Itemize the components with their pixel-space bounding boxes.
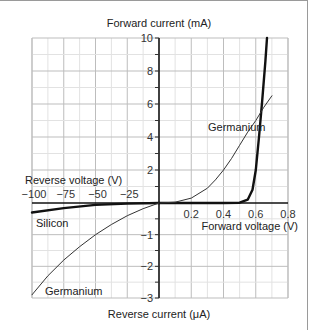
grid: [32, 38, 288, 298]
diode-iv-chart: 108642−1−2−3−100−75−50−250.20.40.60.8 Fo…: [0, 0, 312, 330]
x-tick-label: −75: [56, 188, 75, 200]
silicon-reverse-label: Silicon: [36, 217, 68, 229]
y-tick-label: 4: [147, 131, 153, 143]
x-tick-label: −50: [88, 188, 107, 200]
y-tick-label: −3: [140, 292, 153, 304]
y-tick-label: 6: [147, 98, 153, 110]
y-tick-label: −2: [140, 260, 153, 272]
y-bottom-axis-label: Reverse current (μA): [108, 308, 210, 320]
axes: [32, 38, 288, 298]
y-tick-label: 10: [141, 32, 153, 44]
germanium-reverse-label: Germanium: [45, 285, 102, 297]
x-tick-label: 0.4: [216, 208, 231, 220]
x-tick-label: 0.6: [248, 208, 263, 220]
x-left-axis-label: Reverse voltage (V): [25, 174, 122, 186]
x-tick-label: −25: [120, 188, 139, 200]
y-tick-label: −1: [140, 229, 153, 241]
x-tick-label: 0.8: [280, 208, 295, 220]
y-tick-label: 8: [147, 65, 153, 77]
y-top-axis-label: Forward current (mA): [107, 17, 212, 29]
x-right-axis-label: Forward voltage (V): [201, 220, 298, 232]
x-tick-label: −100: [22, 188, 47, 200]
y-tick-label: 2: [147, 164, 153, 176]
germanium-forward-label: Germanium: [208, 121, 265, 133]
x-tick-label: 0.2: [184, 208, 199, 220]
